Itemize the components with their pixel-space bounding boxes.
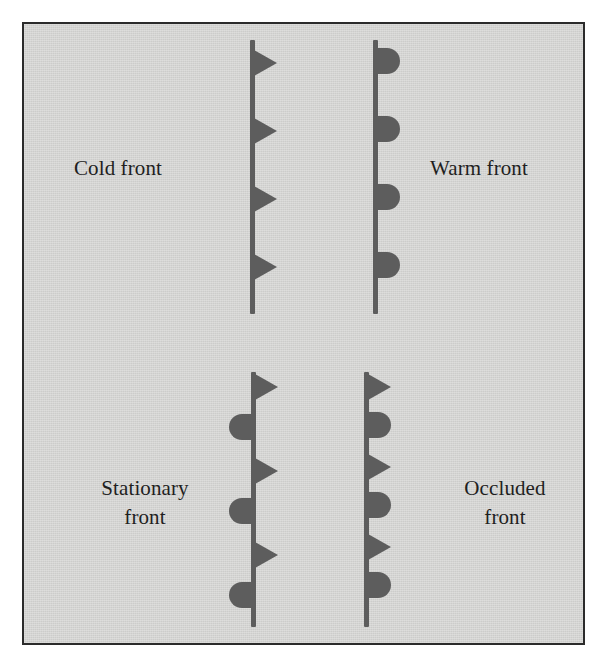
occluded-front-semicircle-right-4 [368, 492, 391, 518]
paper-grain-texture [24, 24, 583, 643]
occluded-front-semicircle-right-2 [368, 412, 391, 438]
stationary-front-symbol-group [251, 372, 256, 627]
stationary-front-semicircle-left-2 [229, 414, 252, 440]
stationary-front-label: Stationary front [70, 474, 220, 532]
warm-front-semicircle-right-3 [377, 184, 400, 210]
cold-front-symbol-group [250, 40, 255, 314]
occluded-front-symbol-group [364, 372, 369, 627]
stationary-front-triangle-right-3 [255, 458, 278, 484]
cold-front-triangle-right-1 [254, 50, 277, 76]
occluded-front-triangle-right-3 [368, 454, 391, 480]
cold-front-triangle-right-4 [254, 254, 277, 280]
occluded-front-semicircle-right-6 [368, 572, 391, 598]
figure-plate: Cold frontWarm frontStationary frontOccl… [22, 22, 585, 645]
stationary-front-triangle-right-1 [255, 374, 278, 400]
warm-front-semicircle-right-4 [377, 252, 400, 278]
stationary-front-triangle-right-5 [255, 542, 278, 568]
warm-front-semicircle-right-2 [377, 116, 400, 142]
cold-front-label: Cold front [74, 154, 162, 183]
stationary-front-semicircle-left-4 [229, 498, 252, 524]
occluded-front-label: Occluded front [430, 474, 580, 532]
weather-fronts-figure: Cold frontWarm frontStationary frontOccl… [0, 0, 606, 664]
occluded-front-triangle-right-1 [368, 374, 391, 400]
warm-front-label: Warm front [430, 154, 528, 183]
warm-front-semicircle-right-1 [377, 48, 400, 74]
warm-front-symbol-group [373, 40, 378, 314]
cold-front-triangle-right-2 [254, 118, 277, 144]
cold-front-triangle-right-3 [254, 186, 277, 212]
occluded-front-triangle-right-5 [368, 534, 391, 560]
stationary-front-semicircle-left-6 [229, 582, 252, 608]
